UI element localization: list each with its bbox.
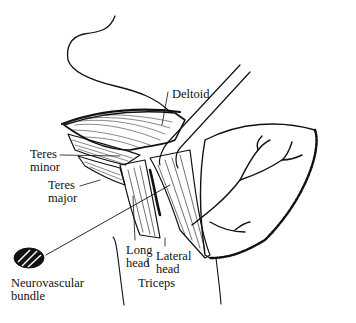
retractor (159, 65, 240, 165)
label-neurovascular-line2: bundle (11, 290, 45, 303)
triceps-long-head (120, 160, 160, 238)
label-teres-major-line2: major (48, 192, 77, 205)
label-long-head-line2: head (126, 257, 150, 270)
leader-teres-minor (60, 155, 120, 156)
teres-major (78, 156, 125, 185)
neurovascular-bundle-icon (14, 248, 44, 268)
arm-outline-left (113, 237, 124, 305)
label-deltoid: Deltoid (172, 88, 210, 101)
label-triceps: Triceps (138, 277, 175, 290)
arm-outline-right (216, 258, 221, 304)
body-outline (68, 16, 168, 110)
leader-long-head (133, 196, 135, 240)
skin-flap (200, 124, 316, 258)
leader-teres-major (80, 180, 100, 186)
label-lateral-head-line2: head (156, 263, 180, 276)
label-teres-minor-line2: minor (30, 161, 60, 174)
